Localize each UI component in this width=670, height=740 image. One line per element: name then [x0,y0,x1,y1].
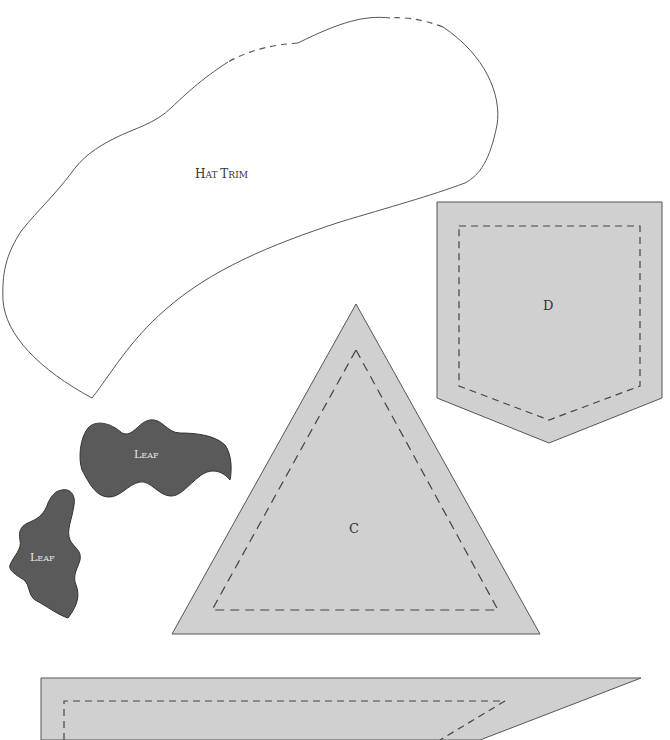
leaf-piece-2: LEAF [10,490,81,618]
piece-c-label: C [349,521,359,536]
piece-d-label: D [543,298,553,313]
hat-trim-piece: HAT TRIM [3,17,498,398]
pattern-sheet: HAT TRIM D C LEAF LEAF [0,0,670,740]
bottom-piece [41,678,641,740]
leaf-piece-1: LEAF [80,420,231,497]
piece-d: D [437,202,662,443]
hat-trim-label: HAT TRIM [195,167,248,181]
